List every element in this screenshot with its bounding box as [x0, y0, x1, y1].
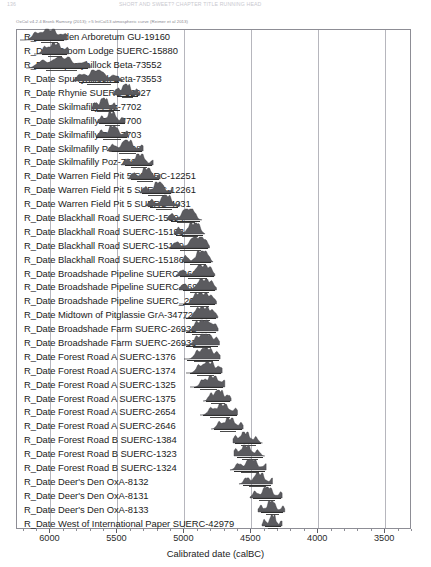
probability-distribution [262, 515, 282, 526]
distribution-row: R_Date Blackhall Road SUERC-15189 [17, 238, 410, 252]
distribution-row: R_Date Skilmafilly Poz-7700 [17, 113, 410, 127]
row-label: R_Date Blackhall Road SUERC-15193 [24, 225, 184, 236]
distribution-row: R_Date Warren Field Pit 5 SUERC-4031 [17, 196, 410, 210]
distribution-row: R_Date Deer's Den OxA-8131 [17, 488, 410, 502]
x-tick-minor-5700 [90, 529, 91, 531]
probability-distribution [184, 348, 220, 359]
distribution-row: R_Date Broadshade Farm SUERC-26933 [17, 335, 410, 349]
probability-distribution [250, 487, 282, 498]
distribution-row: R_Date Deer's Den OxA-8132 [17, 474, 410, 488]
probability-distribution [182, 334, 219, 345]
distribution-row: R_Date Blackhall Road SUERC-15193 [17, 224, 410, 238]
row-label: R_Date Warren Field Pit 5 SUERC-12251 [24, 170, 196, 181]
probability-distribution [186, 362, 222, 373]
distribution-row: R_Date Warren Field Pit 5 SUERC-12261 [17, 182, 410, 196]
probability-distribution [107, 140, 143, 151]
row-label: R_Date Broadshade Farm SUERC-26932 [24, 323, 196, 334]
oxcal-provenance-caption: OxCal v4.2.4 Bronk Ramsey (2013); r:5 In… [16, 19, 188, 24]
probability-distribution [183, 307, 218, 318]
row-label: R_Date Blackhall Road SUERC-15194 [24, 211, 184, 222]
row-label: R_Date Forest Road A SUERC-1376 [24, 350, 176, 361]
probability-distribution [128, 168, 160, 179]
distribution-row: R_Date Forest Road A SUERC-1375 [17, 391, 410, 405]
running-header-page-number: 136 [7, 1, 67, 7]
probability-distribution [97, 112, 125, 123]
distribution-row: R_Date Forest Road B SUERC-1324 [17, 460, 410, 474]
probability-distribution [176, 265, 215, 276]
probability-distribution [168, 237, 210, 248]
distribution-row: R_Date Broom Lodge SUERC-15880 [17, 43, 410, 57]
distribution-row: R_Date Spurryhillock Beta-73553 [17, 71, 410, 85]
plot-frame: R_Date Aden Arboretum GU-19160R_Date Bro… [16, 29, 411, 529]
row-label: R_Date Forest Road A SUERC-1325 [24, 378, 176, 389]
x-tick-minor-3400 [398, 529, 399, 531]
x-tick-minor-4900 [197, 529, 198, 531]
probability-distribution [26, 57, 90, 68]
distribution-row: R_Date Forest Road B SUERC-1323 [17, 446, 410, 460]
distribution-row: R_Date Broadshade Farm SUERC-26932 [17, 321, 410, 335]
distribution-row: R_Date Forest Road A SUERC-2654 [17, 405, 410, 419]
probability-distribution [234, 445, 265, 456]
x-tick-minor-5600 [103, 529, 104, 531]
x-tick-minor-5800 [76, 529, 77, 531]
distribution-row: R_Date Skilmafilly Poz-7703 [17, 127, 410, 141]
row-label: R_Date Forest Road A SUERC-1374 [24, 364, 176, 375]
row-label: R_Date Deer's Den OxA-8132 [24, 475, 149, 486]
x-tick-minor-4700 [224, 529, 225, 531]
distribution-row: R_Date Skilmafilly Poz-7699 [17, 155, 410, 169]
x-axis: 600055005000450040003500 [16, 529, 411, 545]
probability-distribution [20, 29, 67, 40]
distribution-row: R_Date Deer's Den OxA-8133 [17, 502, 410, 516]
row-label: R_Date Forest Road A SUERC-1375 [24, 392, 176, 403]
probability-distribution [92, 98, 117, 109]
running-header-title: SHORT AND SWEET? CHAPTER TITLE RUNNING H… [119, 1, 262, 7]
distribution-row: R_Date Rhynie SUERC-52927 [17, 85, 410, 99]
distribution-row: R_Date Broadshade Pipeline SUERC_26934 [17, 293, 410, 307]
x-tick-minor-5400 [130, 529, 131, 531]
row-label: R_Date Midtown of Pitglassie GrA-34772 [24, 309, 193, 320]
probability-distribution [146, 195, 179, 206]
x-tick-minor-3300 [411, 529, 412, 531]
x-tick-4000 [317, 529, 318, 533]
running-header: 136 SHORT AND SWEET? CHAPTER TITLE RUNNI… [0, 1, 431, 11]
probability-distribution [174, 223, 205, 234]
x-tick-minor-5100 [170, 529, 171, 531]
distribution-row: R_Date West of International Paper SUERC… [17, 516, 410, 530]
x-tick-label-4500: 4500 [240, 533, 260, 543]
x-tick-minor-5300 [143, 529, 144, 531]
probability-distribution [182, 251, 213, 262]
probability-distribution [190, 376, 225, 387]
distribution-row: R_Date Broadshade Pipeline SUERC-26932 [17, 266, 410, 280]
row-label: R_Date Blackhall Road SUERC-15186 [24, 253, 184, 264]
distribution-rows: R_Date Aden Arboretum GU-19160R_Date Bro… [17, 30, 410, 528]
x-tick-minor-3700 [357, 529, 358, 531]
row-label: R_Date Forest Road B SUERC-1323 [24, 448, 177, 459]
x-tick-label-4000: 4000 [307, 533, 327, 543]
probability-distribution [179, 279, 216, 290]
probability-distribution [179, 293, 216, 304]
distribution-row: R_Date Broadshade Pipeline SUERC-26933 [17, 280, 410, 294]
x-tick-minor-4400 [264, 529, 265, 531]
row-label: R_Date Forest Road B SUERC-1324 [24, 461, 177, 472]
row-label: R_Date West of International Paper SUERC… [24, 517, 234, 528]
probability-distribution [258, 501, 285, 512]
x-tick-minor-3600 [371, 529, 372, 531]
x-tick-3500 [384, 529, 385, 533]
distribution-row: R_Date Skilmafilly Poz-7702 [17, 99, 410, 113]
distribution-row: R_Date Aden Arboretum GU-19160 [17, 30, 410, 44]
row-label: R_Date Forest Road B SUERC-1384 [24, 434, 177, 445]
distribution-row: R_Date Forest Road A SUERC-2646 [17, 418, 410, 432]
distribution-row: R_Date Skilmafilly Poz-7698 [17, 141, 410, 155]
distribution-row: R_Date Blackhall Road SUERC-15194 [17, 210, 410, 224]
x-tick-minor-4100 [304, 529, 305, 531]
distribution-row: R_Date Forest Road A SUERC-1325 [17, 377, 410, 391]
x-tick-label-3500: 3500 [374, 533, 394, 543]
x-tick-minor-4300 [277, 529, 278, 531]
row-label: R_Date Forest Road A SUERC-2654 [24, 406, 176, 417]
x-tick-minor-3900 [331, 529, 332, 531]
row-label: R_Date Broadshade Farm SUERC-26933 [24, 336, 196, 347]
probability-distribution [233, 432, 262, 443]
probability-distribution [203, 390, 231, 401]
probability-distribution [200, 404, 237, 415]
probability-distribution [73, 70, 123, 81]
